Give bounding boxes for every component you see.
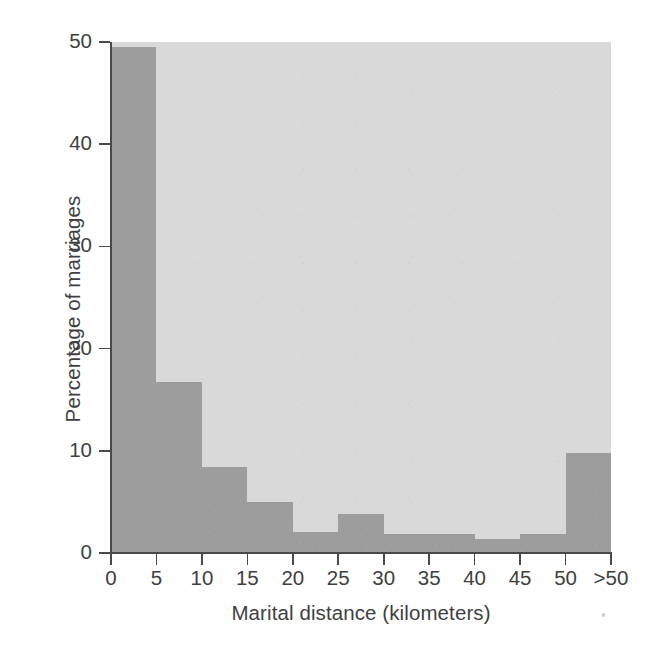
- x-tick-5: [156, 554, 158, 565]
- bar-20–25: [293, 532, 338, 553]
- x-tick-40: [474, 554, 476, 565]
- x-tick-label->50: >50: [576, 566, 646, 590]
- bar-40–45: [475, 539, 520, 553]
- y-tick-label-50: 50: [0, 29, 92, 53]
- x-axis-title: Marital distance (kilometers): [111, 601, 611, 625]
- y-tick-20: [99, 348, 110, 350]
- x-tick->50: [610, 554, 612, 565]
- y-axis-line: [110, 42, 112, 554]
- bar-series: [111, 42, 611, 553]
- bar-45–50: [520, 534, 565, 553]
- bar-25–30: [338, 514, 383, 553]
- y-tick-30: [99, 246, 110, 248]
- y-tick-label-10: 10: [0, 438, 92, 462]
- x-tick-30: [383, 554, 385, 565]
- y-tick-0: [99, 552, 110, 554]
- bar-35–40: [429, 534, 474, 553]
- y-tick-40: [99, 143, 110, 145]
- y-tick-10: [99, 450, 110, 452]
- x-tick-20: [292, 554, 294, 565]
- bar-10–15: [202, 467, 247, 553]
- bar-30–35: [384, 534, 429, 553]
- y-tick-label-20: 20: [0, 336, 92, 360]
- y-tick-label-40: 40: [0, 131, 92, 155]
- x-tick-50: [565, 554, 567, 565]
- bar-5–10: [156, 382, 201, 553]
- x-axis-line: [110, 552, 612, 554]
- x-tick-35: [428, 554, 430, 565]
- x-tick-25: [337, 554, 339, 565]
- plot-area: [111, 42, 611, 553]
- y-tick-label-30: 30: [0, 233, 92, 257]
- x-tick-45: [519, 554, 521, 565]
- bar->50: [566, 453, 611, 553]
- x-tick-15: [247, 554, 249, 565]
- histogram-figure: Percentage of marriages 01020304050 0510…: [0, 0, 660, 664]
- x-tick-10: [201, 554, 203, 565]
- y-tick-label-0: 0: [0, 540, 92, 564]
- bar-15–20: [247, 502, 292, 553]
- y-tick-50: [99, 41, 110, 43]
- scan-speck: [602, 613, 605, 617]
- x-tick-0: [110, 554, 112, 565]
- bar-0–5: [111, 47, 156, 553]
